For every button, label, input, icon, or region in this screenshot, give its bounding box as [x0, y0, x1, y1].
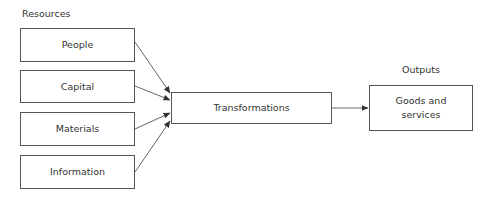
arrow-materials-to-transformations [135, 113, 170, 129]
connector-arrows [0, 0, 493, 202]
arrow-information-to-transformations [135, 121, 170, 172]
arrow-people-to-transformations [135, 42, 170, 93]
arrow-capital-to-transformations [135, 86, 170, 100]
